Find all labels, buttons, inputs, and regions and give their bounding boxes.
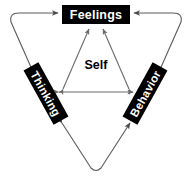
center-label-self: Self [0,58,192,72]
node-feelings-label: Feelings [70,8,122,22]
diagram-connections [0,0,192,179]
arrow-outer-bottom-thinking-behavior [62,123,130,171]
diagram-canvas: Feelings Thinking Behavior Self [0,0,192,179]
node-feelings[interactable]: Feelings [62,5,130,24]
